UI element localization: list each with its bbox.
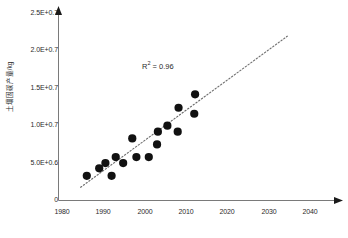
scatter-chart: 土壤固碳产量/kg 2.5E+0.7 2.0E+0.7 1.5E+0.7 1.0… xyxy=(0,0,348,238)
plot-area xyxy=(0,0,348,238)
data-point xyxy=(191,90,199,98)
data-point xyxy=(174,104,182,112)
y-axis-arrowhead-icon xyxy=(55,6,62,15)
data-point xyxy=(153,140,161,148)
data-point xyxy=(101,159,109,167)
data-point xyxy=(132,153,140,161)
data-point xyxy=(163,122,171,130)
data-point xyxy=(83,172,91,180)
trendline xyxy=(81,36,288,187)
data-point xyxy=(108,172,116,180)
data-point xyxy=(154,128,162,136)
data-point xyxy=(174,128,182,136)
data-point xyxy=(128,134,136,142)
data-point xyxy=(190,110,198,118)
x-axis-arrowhead-icon xyxy=(334,197,343,204)
scatter-markers xyxy=(83,90,199,180)
data-point xyxy=(119,159,127,167)
data-point xyxy=(112,153,120,161)
data-point xyxy=(145,153,153,161)
